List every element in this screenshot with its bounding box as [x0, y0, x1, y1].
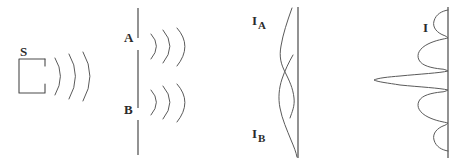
single-slit-intensity-panel	[279, 7, 298, 158]
source-wave-arc-3	[83, 52, 90, 101]
source-panel	[19, 52, 90, 101]
intensity-b-symbol: I	[252, 126, 257, 141]
intensity-total-label: I	[423, 21, 428, 34]
intensity-curve-a	[280, 8, 294, 118]
double-slit-figure: S A B IA IB I	[0, 0, 466, 165]
intensity-curve-b	[279, 55, 297, 157]
slit-b-wave-arc-2	[163, 86, 170, 119]
slit-b-wave-arc-1	[151, 90, 157, 115]
intensity-a-label: IA	[252, 12, 265, 28]
intensity-b-subscript: B	[258, 132, 265, 144]
source-wave-arc-1	[55, 58, 61, 95]
interference-intensity-panel	[374, 7, 448, 158]
source-wave-arc-2	[69, 54, 76, 99]
slit-a-wave-arc-3	[177, 28, 185, 66]
slit-b-wave-arc-3	[177, 84, 185, 122]
intensity-a-subscript: A	[258, 19, 266, 31]
barrier-panel	[138, 8, 185, 155]
interference-curve	[374, 10, 448, 151]
figure-canvas	[0, 0, 466, 165]
slit-a-wave-arc-2	[163, 30, 170, 63]
intensity-a-symbol: I	[252, 13, 257, 28]
intensity-b-label: IB	[252, 125, 264, 141]
slit-a-label: A	[124, 31, 133, 44]
slit-a-wave-arc-1	[151, 34, 157, 59]
slit-b-label: B	[124, 103, 133, 116]
source-box-icon	[19, 59, 45, 93]
source-label: S	[20, 45, 27, 58]
